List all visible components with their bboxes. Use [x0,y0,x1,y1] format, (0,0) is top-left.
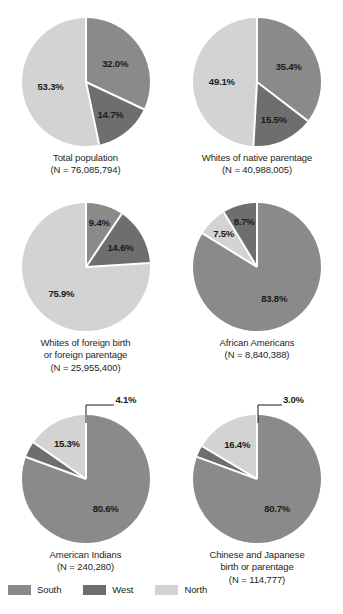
slice-label-south: 83.8% [261,292,287,303]
caption-n: (N = 40,988,005) [171,164,343,176]
legend-swatch-south [8,585,31,595]
caption-title: African Americans [171,337,343,349]
caption-n: (N = 76,085,794) [0,164,171,176]
pie-chart-american-indians: 80.6% 15.3% 4.1% [22,415,150,543]
slice-label-west: 14.7% [98,108,124,119]
legend-item-west: West [83,584,133,595]
caption-title-line2: birth or parentage [171,561,343,573]
slice-separator [85,18,87,82]
pie-caption-total-population: Total population (N = 76,085,794) [0,152,171,177]
caption-n: (N = 8,840,388) [171,349,343,361]
legend-swatch-west [83,585,106,595]
legend-item-north: North [155,584,207,595]
slice-callout-west: 4.1% [116,394,137,405]
pie-chart-grid: 32.0% 14.7% 53.3% Total population (N = … [0,0,343,578]
pie-cell-african-americans: 83.8% 7.5% 8.7% African Americans (N = 8… [171,195,343,395]
legend-label-north: North [184,584,207,595]
slice-label-west: 14.6% [108,241,134,252]
pie-cell-whites-native-parentage: 35.4% 15.5% 49.1% Whites of native paren… [171,0,343,195]
pie-cell-chinese-japanese: 80.7% 16.4% 3.0% Chinese and Japanese bi… [171,395,343,578]
slice-label-north: 15.3% [54,438,80,449]
pie-caption-whites-foreign-birth: Whites of foreign birth or foreign paren… [0,337,171,374]
caption-title: Whites of foreign birth [0,337,171,349]
legend-swatch-north [155,585,178,595]
legend: South West North [8,584,229,595]
pie-chart-whites-native-parentage: 35.4% 15.5% 49.1% [193,18,321,146]
legend-item-south: South [8,584,61,595]
pie-chart-whites-foreign-birth: 9.4% 14.6% 75.9% [22,203,150,331]
slice-label-west: 8.7% [234,216,255,227]
caption-title: Total population [0,152,171,164]
caption-title: American Indians [0,549,171,561]
slice-label-south: 9.4% [89,216,110,227]
slice-separator [85,203,87,267]
slice-label-south: 35.4% [276,61,302,72]
slice-label-south: 80.6% [93,502,119,513]
pie-caption-american-indians: American Indians (N = 240,280) [0,549,171,574]
pie-chart-total-population: 32.0% 14.7% 53.3% [22,18,150,146]
pie-chart-african-americans: 83.8% 7.5% 8.7% [193,203,321,331]
caption-title: Chinese and Japanese [171,549,343,561]
caption-title: Whites of native parentage [171,152,343,164]
callout-leader-line [256,401,286,425]
slice-label-north: 53.3% [38,80,64,91]
slice-label-south: 32.0% [102,58,128,69]
slice-label-west: 15.5% [261,113,287,124]
slice-label-south: 80.7% [264,502,290,513]
callout-leader-line [84,401,118,425]
caption-title-line2: or foreign parentage [0,349,171,361]
figure-pie-grid: 32.0% 14.7% 53.3% Total population (N = … [0,0,343,614]
legend-label-west: West [112,584,133,595]
slice-label-north: 16.4% [224,438,250,449]
caption-n: (N = 25,955,400) [0,362,171,374]
legend-label-south: South [37,584,61,595]
slice-label-north: 7.5% [213,228,234,239]
pie-cell-total-population: 32.0% 14.7% 53.3% Total population (N = … [0,0,171,195]
pie-cell-whites-foreign-birth: 9.4% 14.6% 75.9% Whites of foreign birth… [0,195,171,395]
slice-separator [256,18,258,82]
pie-cell-american-indians: 80.6% 15.3% 4.1% American Indians (N = 2… [0,395,171,578]
slice-label-north: 75.9% [48,287,74,298]
pie-chart-chinese-japanese: 80.7% 16.4% 3.0% [193,415,321,543]
slice-label-north: 49.1% [209,76,235,87]
pie-caption-african-americans: African Americans (N = 8,840,388) [171,337,343,362]
pie-caption-whites-native-parentage: Whites of native parentage (N = 40,988,0… [171,152,343,177]
slice-separator [256,203,258,267]
pie-caption-chinese-japanese: Chinese and Japanese birth or parentage … [171,549,343,586]
slice-callout-west: 3.0% [283,394,304,405]
caption-n: (N = 240,280) [0,561,171,573]
